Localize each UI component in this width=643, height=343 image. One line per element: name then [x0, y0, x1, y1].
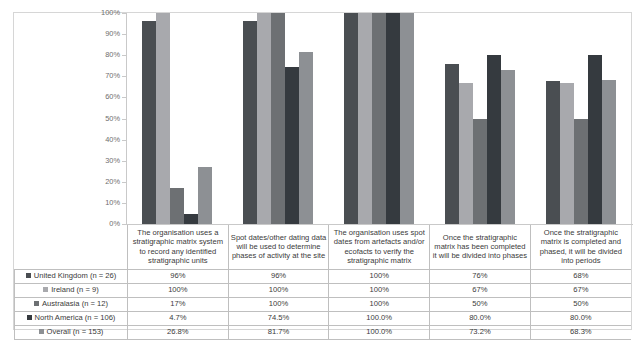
- y-axis: 100%90%80%70%60%50%40%30%20%10%0%: [14, 13, 126, 225]
- y-axis-tick-label: 20%: [60, 178, 120, 186]
- bar: [473, 119, 487, 225]
- bar: [358, 13, 372, 224]
- table-cell-value: 67%: [430, 283, 531, 297]
- bar: [271, 13, 285, 224]
- y-axis-tick-label: 40%: [60, 136, 120, 144]
- legend-entry: United Kingdom (n = 26): [15, 269, 128, 283]
- chart-container: 100%90%80%70%60%50%40%30%20%10%0% The or…: [13, 12, 632, 330]
- y-axis-tick-label: 50%: [60, 115, 120, 123]
- bar-groups: [127, 13, 631, 224]
- table-cell-value: 68%: [530, 269, 631, 283]
- legend-swatch-icon: [39, 329, 44, 334]
- legend-swatch-icon: [26, 273, 31, 278]
- table-column-header: Spot dates/other dating data will be use…: [228, 225, 329, 269]
- legend-entry: Ireland (n = 9): [15, 283, 128, 297]
- bar-group: [530, 13, 631, 224]
- table-cell-value: 4.7%: [128, 311, 229, 325]
- table-column-header: Once the stratigraphic matrix is complet…: [530, 225, 631, 269]
- legend-swatch-icon: [43, 287, 48, 292]
- bar: [184, 214, 198, 224]
- table-cell-value: 100%: [128, 283, 229, 297]
- bar: [299, 52, 313, 224]
- table-cell-value: 26.8%: [128, 325, 229, 339]
- chart-data-table: The organisation uses a stratigraphic ma…: [14, 225, 631, 340]
- bar: [588, 55, 602, 224]
- table-row: United Kingdom (n = 26)96%96%100%76%68%: [15, 269, 632, 283]
- table-cell-value: 80.0%: [430, 311, 531, 325]
- table-header-row: The organisation uses a stratigraphic ma…: [15, 225, 632, 269]
- table-row: North America (n = 106)4.7%74.5%100.0%80…: [15, 311, 632, 325]
- table-row: Ireland (n = 9)100%100%100%67%67%: [15, 283, 632, 297]
- bar: [560, 83, 574, 224]
- legend-entry-label: Australasia (n = 12): [42, 299, 108, 308]
- bar: [344, 13, 358, 224]
- table-cell-value: 96%: [128, 269, 229, 283]
- table-cell-value: 96%: [228, 269, 329, 283]
- legend-swatch-icon: [34, 301, 39, 306]
- table-row: Overall (n = 153)26.8%81.7%100.0%73.2%68…: [15, 325, 632, 339]
- table-corner-cell: [15, 225, 128, 269]
- bar-group: [329, 13, 430, 224]
- bar: [142, 21, 156, 224]
- y-axis-tick-label: 70%: [60, 72, 120, 80]
- table-cell-value: 81.7%: [228, 325, 329, 339]
- table-cell-value: 17%: [128, 297, 229, 311]
- bar: [602, 80, 616, 224]
- y-axis-tick-label: 60%: [60, 93, 120, 101]
- plot-area: 100%90%80%70%60%50%40%30%20%10%0%: [14, 13, 631, 225]
- legend-entry: North America (n = 106): [15, 311, 128, 325]
- legend-entry-label: United Kingdom (n = 26): [34, 271, 117, 280]
- bar: [257, 13, 271, 224]
- table-cell-value: 50%: [430, 297, 531, 311]
- table-cell-value: 100%: [329, 269, 430, 283]
- table-cell-value: 100%: [228, 283, 329, 297]
- table-cell-value: 68.3%: [530, 325, 631, 339]
- legend-entry-label: North America (n = 106): [35, 313, 116, 322]
- y-axis-tick-label: 90%: [60, 30, 120, 38]
- bar: [170, 188, 184, 224]
- legend-entry-label: Ireland (n = 9): [51, 285, 99, 294]
- table-cell-value: 67%: [530, 283, 631, 297]
- bar: [386, 13, 400, 224]
- y-axis-tick-label: 80%: [60, 51, 120, 59]
- table-body: United Kingdom (n = 26)96%96%100%76%68%I…: [15, 269, 632, 339]
- legend-entry: Overall (n = 153): [15, 325, 128, 339]
- bar: [445, 64, 459, 224]
- table-column-header: Once the stratigraphic matrix has been c…: [430, 225, 531, 269]
- bar: [574, 119, 588, 225]
- y-axis-tick-label: 10%: [60, 199, 120, 207]
- table-cell-value: 100%: [329, 297, 430, 311]
- table-cell-value: 100%: [329, 283, 430, 297]
- table-column-header: The organisation uses a stratigraphic ma…: [128, 225, 229, 269]
- bar: [285, 67, 299, 224]
- legend-entry: Australasia (n = 12): [15, 297, 128, 311]
- legend-entry-label: Overall (n = 153): [47, 327, 104, 336]
- table-cell-value: 100.0%: [329, 325, 430, 339]
- table-column-header: The organisation uses spot dates from ar…: [329, 225, 430, 269]
- table-cell-value: 100.0%: [329, 311, 430, 325]
- table-row: Australasia (n = 12)17%100%100%50%50%: [15, 297, 632, 311]
- table-cell-value: 73.2%: [430, 325, 531, 339]
- bar: [400, 13, 414, 224]
- table-cell-value: 74.5%: [228, 311, 329, 325]
- bar-group: [228, 13, 329, 224]
- bar-group: [429, 13, 530, 224]
- bar: [372, 13, 386, 224]
- bar-group: [127, 13, 228, 224]
- bar: [156, 13, 170, 224]
- bar: [198, 167, 212, 224]
- legend-swatch-icon: [27, 315, 32, 320]
- table-cell-value: 80.0%: [530, 311, 631, 325]
- y-axis-tick-label: 100%: [60, 9, 120, 17]
- y-axis-tick-label: 30%: [60, 157, 120, 165]
- bar: [243, 21, 257, 224]
- table-cell-value: 50%: [530, 297, 631, 311]
- table-cell-value: 76%: [430, 269, 531, 283]
- bar: [501, 70, 515, 224]
- bar: [487, 55, 501, 224]
- bar: [459, 83, 473, 224]
- bar: [546, 81, 560, 224]
- table-cell-value: 100%: [228, 297, 329, 311]
